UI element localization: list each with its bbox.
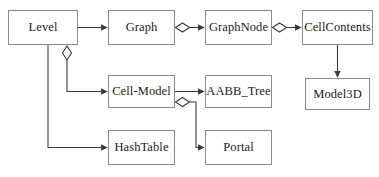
node-cell-model[interactable]: Cell-Model bbox=[108, 75, 175, 108]
node-cellcontents-label: CellContents bbox=[304, 21, 370, 34]
node-portal-label: Portal bbox=[223, 141, 253, 154]
node-graphnode-label: GraphNode bbox=[209, 21, 268, 34]
node-aabb-tree[interactable]: AABB_Tree bbox=[205, 75, 272, 108]
diamond-graphnode-cellcontents bbox=[273, 23, 287, 32]
diamond-level-cellmodel bbox=[63, 46, 72, 60]
edge-level-cellmodel bbox=[67, 60, 107, 92]
edge-level-hashtable bbox=[48, 45, 107, 148]
node-cell-model-label: Cell-Model bbox=[112, 85, 171, 98]
node-level-label: Level bbox=[29, 21, 58, 34]
node-hashtable[interactable]: HashTable bbox=[108, 130, 175, 165]
diamond-graph-graphnode bbox=[176, 23, 190, 32]
node-graphnode[interactable]: GraphNode bbox=[205, 10, 272, 45]
node-graph[interactable]: Graph bbox=[108, 10, 175, 45]
node-portal[interactable]: Portal bbox=[205, 130, 272, 165]
node-level[interactable]: Level bbox=[8, 10, 78, 45]
edge-cellmodel-portal bbox=[190, 102, 205, 148]
node-cellcontents[interactable]: CellContents bbox=[302, 10, 373, 45]
node-hashtable-label: HashTable bbox=[114, 141, 168, 154]
node-aabb-tree-label: AABB_Tree bbox=[206, 85, 270, 98]
node-model3d[interactable]: Model3D bbox=[305, 78, 370, 110]
class-diagram-canvas: Level Graph GraphNode CellContents Model… bbox=[0, 0, 379, 177]
node-graph-label: Graph bbox=[126, 21, 158, 34]
diamond-cellmodel-portal bbox=[176, 98, 190, 107]
node-model3d-label: Model3D bbox=[313, 88, 362, 101]
